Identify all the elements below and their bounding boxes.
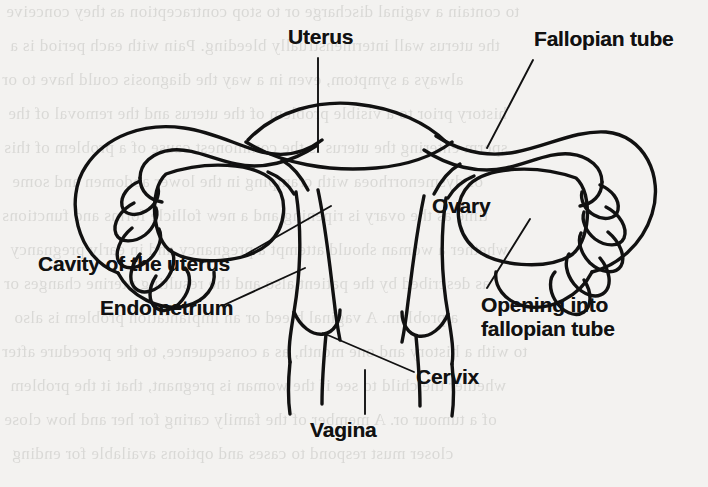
left-ovary [155, 165, 284, 261]
uterus-left-wall [289, 192, 299, 362]
leader-line-endometrium [224, 268, 305, 305]
label-ovary: Ovary [432, 194, 491, 218]
reproductive-organs-illustration [0, 0, 708, 487]
cervix-right-fornix [402, 312, 448, 336]
right-fimbria [579, 232, 622, 272]
label-cavity-of-the-uterus: Cavity of the uterus [38, 252, 230, 276]
label-opening-line-1: Opening into [481, 293, 615, 317]
cervix-left-fornix [294, 310, 340, 334]
label-cervix: Cervix [416, 365, 479, 389]
vaginal-wall-left [289, 362, 291, 414]
label-uterus: Uterus [288, 25, 353, 49]
leader-line-fallopian-tube [487, 60, 533, 148]
label-opening-line-2: fallopian tube [481, 317, 615, 341]
label-opening-into-fallopian-tube: Opening into fallopian tube [481, 293, 615, 340]
leader-line-cavity-of-uterus [243, 206, 331, 256]
endometrial-cavity-right-border [402, 196, 424, 342]
uterus-fundus-top [248, 103, 446, 142]
label-fallopian-tube: Fallopian tube [534, 27, 674, 51]
label-vagina: Vagina [310, 418, 377, 442]
leader-line-opening [487, 219, 530, 288]
diagram-page: to contain a vaginal discharge or to sto… [0, 0, 708, 487]
leader-line-cervix [323, 333, 414, 372]
cervical-canal-left [322, 334, 326, 404]
label-endometrium: Endometrium [100, 296, 233, 320]
uterus-right-wall [442, 198, 452, 364]
